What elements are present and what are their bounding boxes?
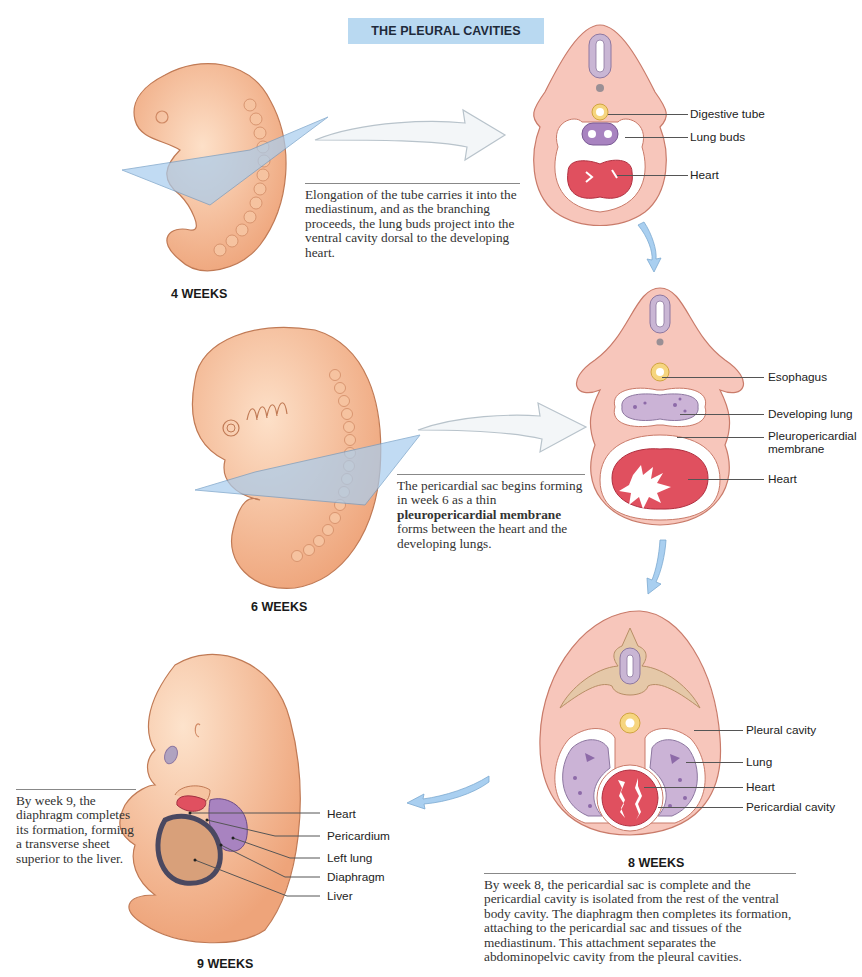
callout-pleural-cavity: Pleural cavity [746, 723, 816, 737]
figure-title: THE PLEURAL CAVITIES [348, 18, 544, 44]
caption-4-weeks: Elongation of the tube carries it into t… [305, 183, 520, 260]
stage-label-6-weeks: 6 WEEKS [251, 600, 307, 614]
callout-lung-8-weeks: Lung [746, 755, 772, 769]
arrow-down-week6-to-week8 [638, 540, 668, 596]
caption-6-weeks-term: pleuropericardial membrane [397, 507, 561, 522]
embryo-6-weeks-illustration [175, 320, 435, 600]
cross-section-8-weeks [530, 608, 730, 838]
arrow-week8-to-week9 [405, 774, 490, 812]
callout-pericardial-cavity: Pericardial cavity [746, 800, 835, 814]
arrow-4-weeks-to-section [315, 105, 515, 165]
callout-heart-9-weeks: Heart [327, 807, 356, 821]
stage-label-4-weeks: 4 WEEKS [171, 287, 227, 301]
leader-lines-9-weeks [185, 800, 325, 890]
callout-esophagus: Esophagus [768, 370, 827, 384]
callout-heart-6-weeks: Heart [768, 472, 797, 486]
arrow-down-week4-to-week6 [636, 222, 666, 274]
callout-heart-8-weeks: Heart [746, 780, 775, 794]
callout-digestive-tube: Digestive tube [690, 107, 765, 121]
embryo-9-weeks-illustration [115, 645, 315, 945]
callout-pleuropericardial-membrane: Pleuropericardial membrane [768, 430, 862, 456]
cross-section-6-weeks [565, 285, 765, 530]
callout-developing-lung: Developing lung [768, 407, 853, 421]
callout-diaphragm: Diaphragm [327, 870, 385, 884]
callout-left-lung: Left lung [327, 851, 372, 865]
caption-6-weeks-text-post: forms between the heart and the developi… [397, 521, 567, 550]
stage-label-9-weeks: 9 WEEKS [197, 957, 253, 971]
caption-6-weeks: The pericardial sac begins forming in we… [397, 474, 585, 551]
caption-6-weeks-text-pre: The pericardial sac begins forming in we… [397, 478, 582, 507]
callout-lung-buds: Lung buds [690, 130, 745, 144]
stage-label-8-weeks: 8 WEEKS [628, 856, 684, 870]
cross-section-4-weeks [520, 22, 680, 227]
caption-8-weeks: By week 8, the pericardial sac is comple… [484, 873, 796, 964]
callout-liver: Liver [327, 889, 353, 903]
callout-pericardium: Pericardium [327, 829, 390, 843]
caption-9-weeks: By week 9, the diaphragm completes its f… [16, 789, 136, 866]
callout-heart-4-weeks: Heart [690, 168, 719, 182]
